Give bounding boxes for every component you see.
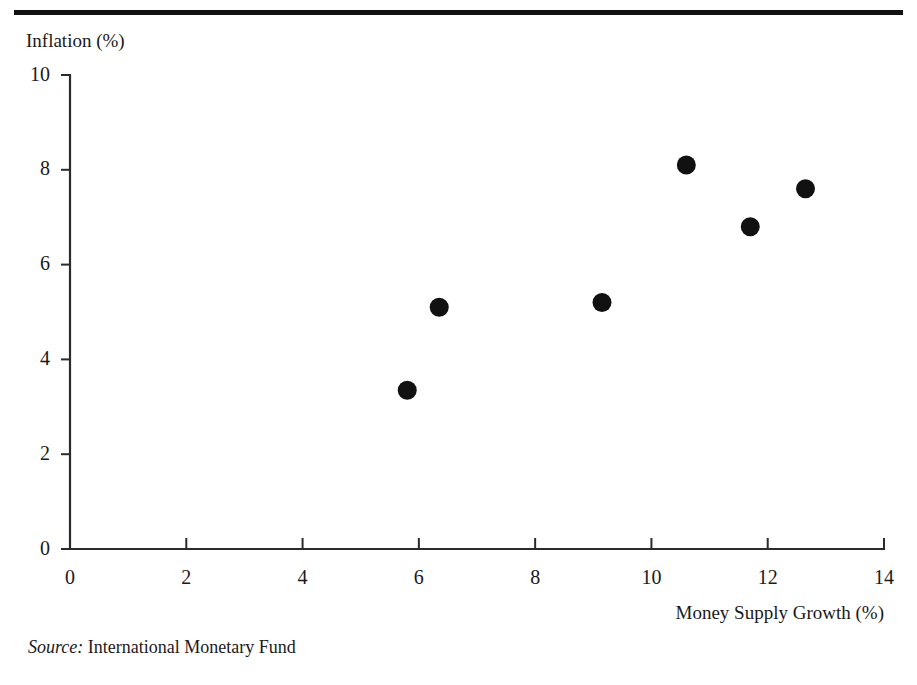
x-tick-label: 0 <box>65 566 75 588</box>
x-tick-label: 4 <box>298 566 308 588</box>
plot-canvas: 0246810 02468101214 <box>0 0 917 685</box>
data-point <box>593 293 612 312</box>
x-tick-label: 10 <box>641 566 661 588</box>
y-tick-label: 2 <box>40 442 50 464</box>
source-value: International Monetary Fund <box>83 637 295 657</box>
x-tick-label: 6 <box>414 566 424 588</box>
scatter-plot: 0246810 02468101214 <box>0 0 917 685</box>
data-point <box>677 156 696 175</box>
y-tick-label: 4 <box>40 347 50 369</box>
x-tick-label: 14 <box>874 566 894 588</box>
y-tick-label: 10 <box>30 63 50 85</box>
x-axis-title: Money Supply Growth (%) <box>676 602 884 624</box>
x-tick-label: 12 <box>758 566 778 588</box>
y-tick-label: 0 <box>40 537 50 559</box>
x-tick-label: 8 <box>530 566 540 588</box>
axis-frame <box>70 75 884 549</box>
y-tick-label: 6 <box>40 252 50 274</box>
y-tick-label: 8 <box>40 157 50 179</box>
data-points-layer <box>398 156 815 400</box>
data-point <box>796 179 815 198</box>
data-point <box>398 381 417 400</box>
x-axis-ticks: 02468101214 <box>65 538 894 588</box>
y-axis-ticks: 0246810 <box>30 63 70 559</box>
data-point <box>741 217 760 236</box>
source-label: Source: <box>28 637 83 657</box>
data-point <box>430 298 449 317</box>
source-note: Source: International Monetary Fund <box>28 637 296 658</box>
x-tick-label: 2 <box>181 566 191 588</box>
